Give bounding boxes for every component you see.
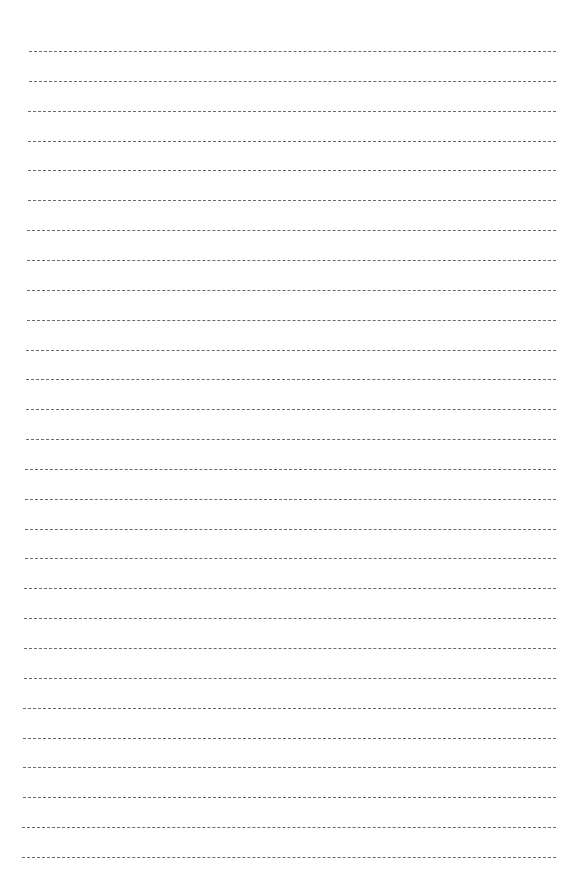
ruled-line	[27, 290, 556, 291]
ruled-line	[28, 111, 556, 112]
ruled-line	[24, 588, 556, 589]
ruled-line	[22, 827, 556, 828]
ruled-line	[23, 708, 556, 709]
ruled-line	[24, 648, 556, 649]
ruled-line	[29, 51, 556, 52]
ruled-line	[23, 767, 556, 768]
ruled-line	[28, 200, 556, 201]
ruled-line	[25, 558, 556, 559]
ruled-line	[23, 738, 556, 739]
ruled-line	[26, 409, 556, 410]
lined-page	[0, 0, 579, 890]
ruled-line	[25, 469, 556, 470]
ruled-line	[29, 81, 556, 82]
ruled-line	[27, 230, 556, 231]
ruled-line	[27, 260, 556, 261]
ruled-line	[26, 350, 556, 351]
ruled-line	[28, 141, 556, 142]
ruled-line	[28, 170, 556, 171]
ruled-line	[22, 857, 556, 858]
ruled-line	[26, 379, 556, 380]
ruled-line	[23, 797, 556, 798]
ruled-line	[27, 320, 556, 321]
ruled-line	[25, 499, 556, 500]
ruled-line	[24, 678, 556, 679]
ruled-line	[24, 618, 556, 619]
ruled-line	[25, 529, 556, 530]
ruled-line	[26, 439, 556, 440]
